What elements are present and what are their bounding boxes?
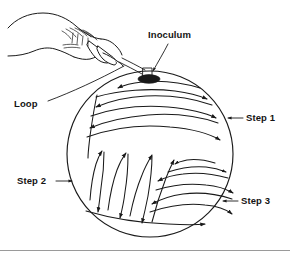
footer-divider	[0, 250, 290, 251]
inoculum-label: Inoculum	[148, 29, 191, 40]
inoculum-annotation	[153, 44, 168, 71]
step1-label: Step 1	[246, 112, 276, 123]
hand-illustration	[8, 13, 123, 66]
step3-label: Step 3	[241, 195, 270, 206]
loop-label: Loop	[14, 98, 38, 109]
figure-container: Inoculum Loop Step 1 Step 2 Step 3	[0, 0, 290, 259]
step2-label: Step 2	[17, 175, 46, 186]
streak-plate-diagram: Inoculum Loop Step 1 Step 2 Step 3	[0, 0, 290, 259]
